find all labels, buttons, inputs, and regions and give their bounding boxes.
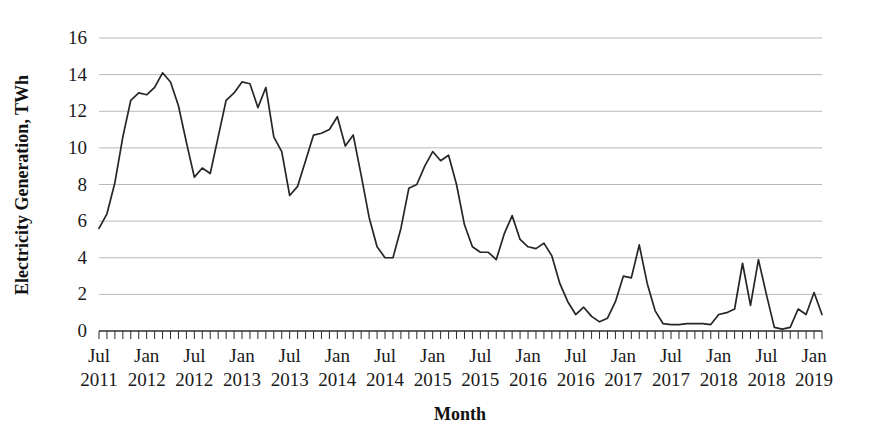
x-axis-tick-month: Jul	[88, 345, 110, 366]
x-axis-tick-year: 2019	[795, 369, 833, 390]
x-axis-tick-year: 2012	[128, 369, 166, 390]
x-axis-tick-year: 2012	[175, 369, 213, 390]
x-axis-tick-month: Jan	[611, 345, 637, 366]
x-axis-tick-year: 2014	[318, 369, 357, 390]
line-chart: 0246810121416 Jul2011Jan2012Jul2012Jan20…	[0, 0, 869, 435]
x-axis-tick-month: Jan	[420, 345, 446, 366]
x-axis-tick-month: Jan	[325, 345, 351, 366]
y-axis-tick-label: 4	[78, 247, 88, 268]
y-axis-tick-label: 16	[68, 27, 87, 48]
x-axis-tick-year: 2018	[747, 369, 785, 390]
y-axis-tick-labels: 0246810121416	[68, 27, 88, 341]
x-axis-title: Month	[434, 404, 486, 424]
y-axis-tick-label: 2	[78, 283, 88, 304]
x-axis-tick-year: 2018	[700, 369, 738, 390]
x-axis-tick-year: 2017	[652, 369, 690, 390]
x-axis-tick-month: Jul	[660, 345, 682, 366]
x-axis-tick-month: Jul	[279, 345, 301, 366]
y-axis-tick-label: 10	[68, 137, 87, 158]
x-axis-tick-month: Jul	[374, 345, 396, 366]
y-axis-tick-label: 14	[68, 64, 88, 85]
chart-container: 0246810121416 Jul2011Jan2012Jul2012Jan20…	[0, 0, 869, 435]
x-axis-tick-year: 2016	[557, 369, 595, 390]
x-axis-tick-month: Jul	[183, 345, 205, 366]
y-axis-tick-label: 0	[78, 320, 88, 341]
x-axis-tick-year: 2013	[271, 369, 309, 390]
x-axis-tick-month: Jul	[565, 345, 587, 366]
y-axis-tick-label: 12	[68, 100, 87, 121]
x-axis-minor-ticks	[99, 331, 822, 339]
gridlines-group	[99, 38, 822, 294]
x-axis-tick-month: Jan	[229, 345, 255, 366]
x-axis-tick-year: 2015	[414, 369, 452, 390]
x-axis-tick-year: 2017	[604, 369, 642, 390]
x-axis-tick-year: 2015	[461, 369, 499, 390]
x-axis-tick-year: 2011	[80, 369, 117, 390]
y-axis-tick-label: 6	[78, 210, 88, 231]
x-axis-tick-month: Jul	[755, 345, 777, 366]
x-axis-tick-labels: Jul2011Jan2012Jul2012Jan2013Jul2013Jan20…	[80, 345, 833, 390]
y-axis-tick-label: 8	[78, 174, 88, 195]
x-axis-tick-month: Jul	[469, 345, 491, 366]
x-axis-tick-year: 2016	[509, 369, 547, 390]
y-axis-title: Electricity Generation, TWh	[12, 75, 32, 295]
x-axis-tick-month: Jan	[515, 345, 541, 366]
x-axis-tick-month: Jan	[706, 345, 732, 366]
x-axis-tick-year: 2013	[223, 369, 261, 390]
x-axis-tick-month: Jan	[134, 345, 160, 366]
x-axis-tick-year: 2014	[366, 369, 405, 390]
x-axis-tick-month: Jan	[801, 345, 827, 366]
